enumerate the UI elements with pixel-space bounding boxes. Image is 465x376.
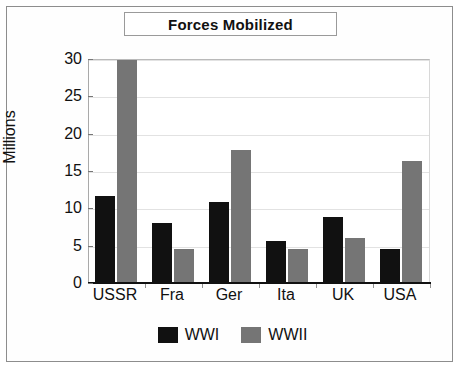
x-axis-tick-labels: USSRFraGerItaUKUSA xyxy=(88,286,430,310)
legend-swatch-wwi xyxy=(158,327,178,343)
y-axis-tick-mark xyxy=(88,59,93,60)
y-axis-tick-mark xyxy=(88,283,93,284)
gridline xyxy=(89,135,429,136)
bar-wwi-ussr xyxy=(95,196,115,284)
y-axis-tick-mark xyxy=(88,171,93,172)
bar-wwi-fra xyxy=(152,223,172,284)
bar-wwii-usa xyxy=(402,161,422,284)
gridline xyxy=(89,209,429,210)
y-axis-title: Millions xyxy=(1,110,19,163)
x-axis-tick-label: USSR xyxy=(93,286,137,304)
legend-entry: WWI xyxy=(158,327,220,343)
y-axis-tick-label: 30 xyxy=(56,51,82,67)
legend-entry: WWII xyxy=(241,327,307,343)
x-axis-tick-label: Ita xyxy=(277,286,295,304)
x-axis-tick-label: UK xyxy=(332,286,354,304)
x-axis-tick-label: Ger xyxy=(216,286,243,304)
bar-wwii-uk xyxy=(345,238,365,284)
bar-wwi-uk xyxy=(323,217,343,284)
x-axis-tick-mark xyxy=(145,284,146,288)
plot-area xyxy=(88,59,430,283)
y-axis-tick-label: 20 xyxy=(56,126,82,142)
legend-label: WWI xyxy=(185,327,220,343)
bar-wwi-ita xyxy=(266,241,286,284)
y-axis-tick-labels: 051015202530 xyxy=(52,0,82,376)
bar-wwii-ita xyxy=(288,249,308,284)
bar-wwii-ger xyxy=(231,150,251,284)
y-axis-tick-label: 25 xyxy=(56,88,82,104)
chart-legend: WWIWWII xyxy=(0,327,465,343)
y-axis-tick-label: 5 xyxy=(56,238,82,254)
gridline xyxy=(89,97,429,98)
y-axis-tick-label: 10 xyxy=(56,200,82,216)
y-axis-tick-mark xyxy=(88,208,93,209)
x-axis-tick-label: USA xyxy=(384,286,417,304)
chart-screenshot: Forces Mobilized 051015202530 Millions U… xyxy=(0,0,465,376)
x-axis-tick-mark xyxy=(259,284,260,288)
gridline xyxy=(89,172,429,173)
bar-wwi-ger xyxy=(209,202,229,284)
y-axis-tick-label: 15 xyxy=(56,163,82,179)
x-axis-tick-mark xyxy=(316,284,317,288)
x-axis-tick-label: Fra xyxy=(160,286,184,304)
bar-wwii-ussr xyxy=(117,60,137,284)
y-axis-tick-mark xyxy=(88,134,93,135)
gridline xyxy=(89,60,429,61)
x-axis-tick-mark xyxy=(202,284,203,288)
gridline xyxy=(89,247,429,248)
legend-swatch-wwii xyxy=(241,327,261,343)
chart-title: Forces Mobilized xyxy=(124,12,337,36)
y-axis-tick-mark xyxy=(88,96,93,97)
bar-wwii-fra xyxy=(174,249,194,284)
bar-wwi-usa xyxy=(380,249,400,284)
x-axis-tick-mark xyxy=(373,284,374,288)
y-axis-tick-label: 0 xyxy=(56,275,82,291)
y-axis-tick-mark xyxy=(88,246,93,247)
legend-label: WWII xyxy=(268,327,307,343)
x-axis-tick-mark xyxy=(430,284,431,288)
